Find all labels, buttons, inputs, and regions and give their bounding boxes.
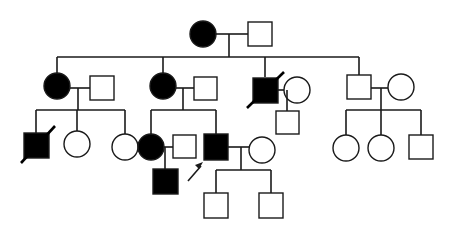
generation-2 [36,72,421,135]
affected-male-IV-1 [153,169,178,194]
unaffected-male-IV-2 [204,193,228,218]
proband-arrowhead-icon [195,162,203,169]
affected-male-proband-III-6 [204,134,228,160]
unaffected-male-III-11 [409,135,433,159]
unaffected-female-III-3 [112,134,138,160]
unaffected-female-II-6 [284,77,310,103]
generation-1 [57,21,359,77]
unaffected-female-II-8 [388,74,414,100]
unaffected-male-III-8 [276,111,299,134]
affected-female-II-3 [150,73,176,99]
unaffected-female-III-2 [64,131,90,157]
unaffected-male-II-7 [347,75,371,99]
unaffected-male-III-5 [173,135,196,158]
unaffected-female-III-7 [249,137,275,163]
unaffected-male-IV-3 [259,193,283,218]
unaffected-female-III-9 [333,135,359,161]
pedigree-diagram: pedigree [0,0,453,234]
affected-female-II-1 [44,73,70,99]
pedigree-canvas [0,0,453,234]
unaffected-male-II-2 [90,76,114,100]
generation-4 [204,193,283,218]
generation-3 [21,126,433,194]
unaffected-female-III-10 [368,135,394,161]
affected-female-I-1 [190,21,216,47]
unaffected-male-II-4 [194,77,217,100]
unaffected-male-I-2 [248,22,272,46]
affected-female-III-4 [138,134,164,160]
